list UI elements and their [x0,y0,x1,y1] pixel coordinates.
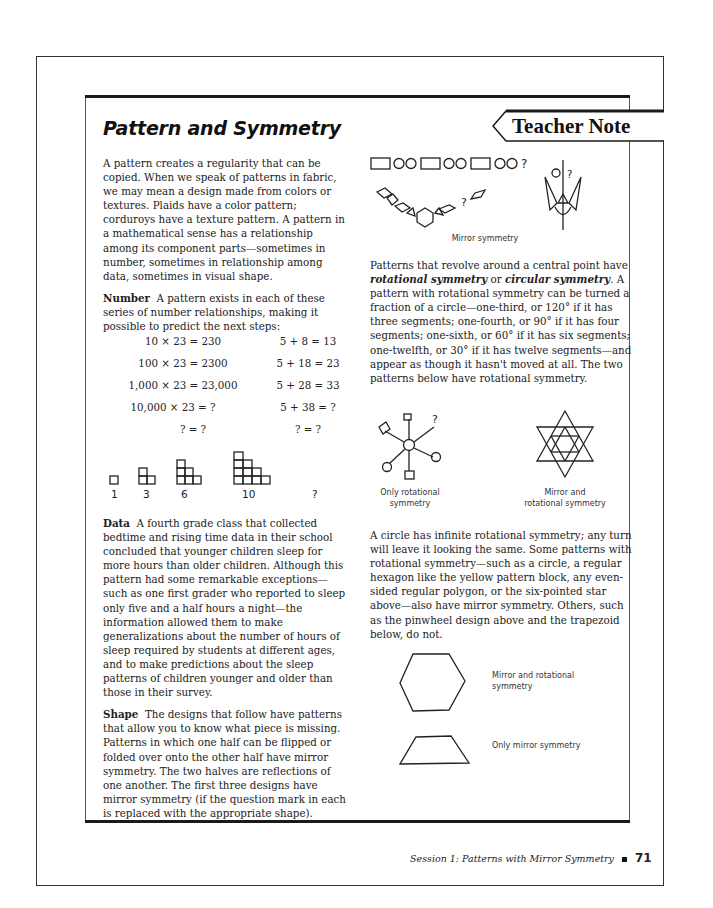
caption-line: Mirror and [515,487,615,498]
equation-row: 1,000 × 23 = 23,0005 + 28 = 33 [103,379,353,401]
rotational-paragraph: Patterns that revolve around a central p… [370,258,632,393]
number-heading: Number [103,292,150,304]
star-caption: Mirror and rotational symmetry [515,487,615,509]
equation-row: ? = ?? = ? [103,423,353,445]
equation-left: ? = ? [118,423,268,435]
bullet-separator [622,857,627,862]
left-column-lower: Data A fourth grade class that collected… [103,516,351,828]
rotational-symmetry-diagrams: ? [365,405,635,485]
triangular-label: 6 [181,488,188,500]
shape-paragraph: Shape The designs that follow have patte… [103,707,351,820]
mirror-symmetry-diagrams: ? ? ? [365,150,635,240]
caption-line: Only rotational [370,487,450,498]
term-circular-symmetry: circular symmetry [505,273,610,285]
left-column: A pattern creates a regularity that can … [103,156,351,341]
equation-row: 10 × 23 = 2305 + 8 = 13 [103,335,353,357]
top-rule [85,95,630,98]
shape-text: The designs that follow have patterns th… [103,708,346,819]
page-footer: Session 1: Patterns with Mirror Symmetry… [410,851,652,865]
page-number: 71 [635,851,652,865]
caption-line: Mirror and rotational [492,670,602,681]
text-span: or [487,273,505,285]
data-text: A fourth grade class that collected bedt… [103,517,345,698]
page-title: Pattern and Symmetry [103,117,341,139]
text-span: Patterns that revolve around a central p… [370,259,628,271]
triangular-label: 3 [143,488,150,500]
trapezoid-caption: Only mirror symmetry [492,740,612,751]
term-rotational-symmetry: rotational symmetry [370,273,487,285]
equation-right: 5 + 38 = ? [268,401,348,413]
trident-question-mark: ? [567,169,572,180]
caption-line: symmetry [492,681,602,692]
number-paragraph: Number A pattern exists in each of these… [103,291,351,333]
polygon-diagrams [395,650,495,770]
rotational-text: Patterns that revolve around a central p… [370,258,632,385]
equation-row: 100 × 23 = 23005 + 18 = 23 [103,357,353,379]
sequence-question-mark: ? [521,157,527,171]
equation-left: 1,000 × 23 = 23,000 [108,379,258,391]
chain-question-mark: ? [461,196,467,209]
mirror-symmetry-caption: Mirror symmetry [430,233,540,244]
equation-right: ? = ? [268,423,348,435]
caption-line: symmetry [370,498,450,509]
equation-row: 10,000 × 23 = ?5 + 38 = ? [103,401,353,423]
shape-heading: Shape [103,708,138,720]
triangular-label: 10 [242,488,255,500]
data-paragraph: Data A fourth grade class that collected… [103,516,351,699]
equation-right: 5 + 28 = 33 [268,379,348,391]
equation-right: 5 + 8 = 13 [268,335,348,347]
text-span: . A pattern with rotational symmetry can… [370,273,631,384]
hexagon-caption: Mirror and rotational symmetry [492,670,602,692]
teacher-note-label: Teacher Note [512,114,630,139]
triangular-label: ? [312,488,318,500]
trapezoid-shape [400,736,469,764]
triangular-labels: 1 3 6 10 ? [100,488,350,504]
equation-right: 5 + 18 = 23 [268,357,348,369]
teacher-note-tab: Teacher Note [492,110,664,142]
equation-left: 10,000 × 23 = ? [98,401,248,413]
intro-paragraph: A pattern creates a regularity that can … [103,156,351,283]
circle-paragraph: A circle has infinite rotational symmetr… [370,528,632,649]
triangular-label: 1 [111,488,118,500]
session-title: Session 1: Patterns with Mirror Symmetry [410,853,614,864]
data-heading: Data [103,517,130,529]
hexagon-shape [400,654,465,711]
pinwheel-question-mark: ? [432,413,438,426]
circle-text: A circle has infinite rotational symmetr… [370,528,632,641]
pinwheel-caption: Only rotational symmetry [370,487,450,509]
equation-left: 10 × 23 = 230 [108,335,258,347]
caption-line: rotational symmetry [515,498,615,509]
equation-table: 10 × 23 = 2305 + 8 = 13 100 × 23 = 23005… [103,335,353,445]
equation-left: 100 × 23 = 2300 [108,357,258,369]
